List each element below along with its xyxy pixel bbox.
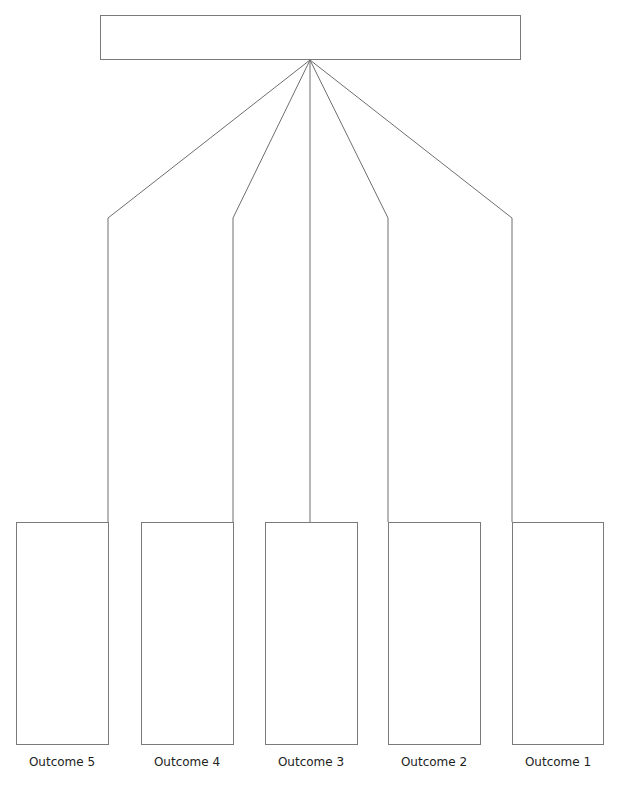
outcome-box-5: [16, 522, 109, 745]
top-box: [100, 15, 521, 60]
connector-outcome-1: [310, 60, 512, 522]
connector-outcome-2: [310, 60, 388, 522]
outcome-box-1: [512, 522, 604, 745]
outcome-label-2: Outcome 2: [374, 755, 494, 769]
outcome-label-3: Outcome 3: [251, 755, 371, 769]
outcome-label-4: Outcome 4: [127, 755, 247, 769]
outcome-box-3: [265, 522, 358, 745]
connector-outcome-4: [233, 60, 310, 522]
outcome-box-2: [388, 522, 481, 745]
connector-outcome-5: [108, 60, 310, 522]
outcome-label-1: Outcome 1: [498, 755, 617, 769]
outcome-box-4: [141, 522, 234, 745]
outcome-label-5: Outcome 5: [2, 755, 122, 769]
